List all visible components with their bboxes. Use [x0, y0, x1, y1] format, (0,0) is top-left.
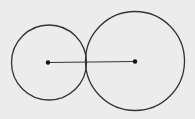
right-center-point [133, 59, 137, 63]
tangent-circles-diagram [0, 0, 195, 119]
left-center-point [46, 60, 50, 64]
background [0, 0, 195, 119]
